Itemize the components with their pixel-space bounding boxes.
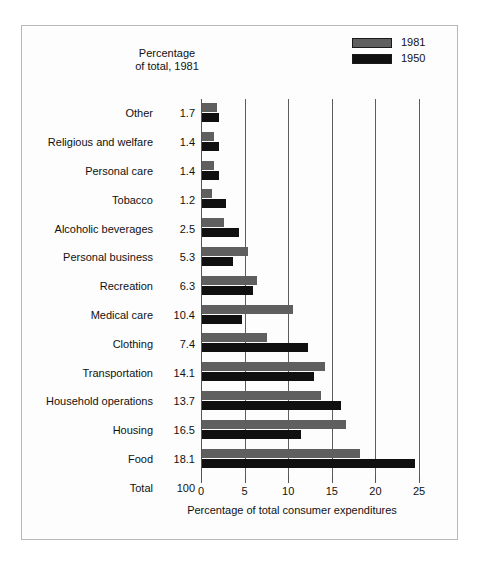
value-caption-line-1: Percentage: [130, 47, 204, 60]
category-row: Transportation14.1: [22, 358, 201, 387]
x-tick-10: [288, 474, 289, 483]
bar-1981: [202, 189, 212, 198]
bar-group: [202, 157, 419, 186]
legend-swatch-1950: [352, 54, 392, 64]
x-tick-25: [419, 474, 420, 483]
bar-group: [202, 329, 419, 358]
category-value: 1.4: [161, 136, 195, 148]
bar-1981: [202, 305, 293, 314]
category-row: Tobacco1.2: [22, 185, 201, 214]
x-axis-tick-labels: 0510152025: [201, 485, 419, 499]
category-name: Food: [128, 453, 153, 465]
bar-1950: [202, 430, 301, 439]
bar-group: [202, 445, 419, 474]
x-axis-title: Percentage of total consumer expenditure…: [142, 504, 442, 516]
bar-1950: [202, 142, 219, 151]
category-row: Clothing7.4: [22, 329, 201, 358]
bar-1981: [202, 132, 214, 141]
bar-1950: [202, 113, 219, 122]
x-tick-label-0: 0: [186, 485, 216, 497]
category-row: Medical care10.4: [22, 301, 201, 330]
bar-1950: [202, 401, 341, 410]
bar-1981: [202, 218, 224, 227]
category-value: 2.5: [161, 223, 195, 235]
category-name: Personal care: [85, 165, 153, 177]
gridline-25: [419, 99, 420, 474]
x-tick-label-15: 15: [317, 485, 347, 497]
chart-figure: 1981 1950 Percentage of total, 1981 Othe…: [21, 25, 458, 540]
legend-label-1981: 1981: [401, 37, 425, 48]
category-value: 1.4: [161, 165, 195, 177]
category-row: Other1.7: [22, 99, 201, 128]
category-row: Alcoholic beverages2.5: [22, 214, 201, 243]
category-value: 10.4: [161, 309, 195, 321]
category-value: 16.5: [161, 424, 195, 436]
category-row: Food18.1: [22, 445, 201, 474]
category-name: Transportation: [82, 367, 153, 379]
value-caption-line-2: of total, 1981: [130, 60, 204, 73]
category-name: Clothing: [113, 338, 153, 350]
value-column-caption: Percentage of total, 1981: [130, 47, 204, 73]
category-name: Alcoholic beverages: [55, 223, 153, 235]
x-tick-label-10: 10: [273, 485, 303, 497]
bar-1950: [202, 228, 239, 237]
bar-1981: [202, 333, 267, 342]
bar-group: [202, 99, 419, 128]
bar-1981: [202, 449, 360, 458]
x-tick-label-20: 20: [360, 485, 390, 497]
category-value: 6.3: [161, 280, 195, 292]
category-name: Religious and welfare: [48, 136, 153, 148]
category-row: Recreation6.3: [22, 272, 201, 301]
category-value: 1.2: [161, 194, 195, 206]
x-axis-ticks: [201, 474, 419, 484]
x-tick-5: [245, 474, 246, 483]
bar-1950: [202, 372, 314, 381]
category-name: Medical care: [91, 309, 153, 321]
bar-1981: [202, 103, 217, 112]
bar-1981: [202, 161, 214, 170]
bar-group: [202, 387, 419, 416]
bar-group: [202, 358, 419, 387]
bar-group: [202, 128, 419, 157]
category-value: 7.4: [161, 338, 195, 350]
bar-1950: [202, 459, 415, 468]
category-value: 5.3: [161, 251, 195, 263]
bar-group: [202, 416, 419, 445]
category-name: Tobacco: [112, 194, 153, 206]
category-value: 1.7: [161, 107, 195, 119]
category-name: Housing: [113, 424, 153, 436]
bar-1981: [202, 391, 321, 400]
x-tick-0: [201, 474, 202, 483]
category-name: Other: [125, 107, 153, 119]
bar-1981: [202, 247, 248, 256]
x-tick-15: [332, 474, 333, 483]
bar-group: [202, 272, 419, 301]
x-tick-20: [375, 474, 376, 483]
bar-1950: [202, 343, 308, 352]
category-row: Household operations13.7: [22, 387, 201, 416]
bar-1950: [202, 199, 226, 208]
bar-1950: [202, 315, 242, 324]
category-value: 14.1: [161, 367, 195, 379]
x-tick-label-25: 25: [404, 485, 434, 497]
bar-1981: [202, 420, 346, 429]
category-row: Personal care1.4: [22, 157, 201, 186]
bar-group: [202, 214, 419, 243]
legend-label-1950: 1950: [401, 53, 425, 64]
bar-1950: [202, 257, 233, 266]
category-row: Housing16.5: [22, 416, 201, 445]
category-label-column: Other1.7Religious and welfare1.4Personal…: [22, 99, 201, 503]
bar-group: [202, 301, 419, 330]
category-name: Household operations: [46, 395, 153, 407]
x-tick-label-5: 5: [230, 485, 260, 497]
legend-item-1950: 1950: [352, 52, 448, 65]
bar-group: [202, 185, 419, 214]
bar-group: [202, 243, 419, 272]
category-row: Total100: [22, 473, 201, 502]
category-row: Personal business5.3: [22, 243, 201, 272]
category-name: Recreation: [100, 280, 153, 292]
chart-legend: 1981 1950: [352, 36, 448, 68]
bar-1981: [202, 276, 257, 285]
bar-1950: [202, 171, 219, 180]
plot-area: [201, 99, 419, 474]
